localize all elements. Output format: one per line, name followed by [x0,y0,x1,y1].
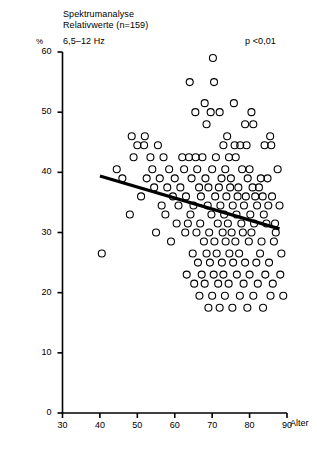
data-point [207,109,214,116]
data-point [188,175,195,182]
data-point [162,211,169,218]
data-point [212,154,219,161]
data-point [230,100,237,107]
data-point [202,175,209,182]
data-point [250,121,257,128]
data-point [211,238,218,245]
y-tick-label: 30 [30,227,52,237]
data-point [264,175,271,182]
data-point [268,142,275,149]
x-tick-label: 80 [239,420,261,430]
data-point [260,211,267,218]
data-point [236,292,243,299]
x-tick-label: 70 [201,420,223,430]
data-point [134,142,141,149]
data-point [158,202,165,209]
data-point [262,271,269,278]
data-point [198,271,205,278]
data-point [233,271,240,278]
data-point [220,271,227,278]
data-point [206,229,213,236]
data-point [280,292,287,299]
data-point [138,193,145,200]
y-tick-label: 50 [30,106,52,116]
data-point [203,250,210,257]
data-point [130,154,137,161]
data-point [179,154,186,161]
x-tick-label: 90 [276,420,298,430]
data-point [201,100,208,107]
data-point [203,121,210,128]
data-point [211,79,218,86]
data-point [154,142,161,149]
data-point [208,211,215,218]
data-point [246,271,253,278]
data-point [259,193,266,200]
data-point [141,133,148,140]
x-tick-label: 40 [89,420,111,430]
data-point [252,193,259,200]
data-point [185,154,192,161]
data-point [236,250,243,257]
data-point [143,175,150,182]
data-point [212,193,219,200]
data-point [244,175,251,182]
data-point [220,142,227,149]
data-point [192,109,199,116]
data-point [193,229,200,236]
data-point [205,304,212,311]
data-point [184,220,191,227]
data-point [226,250,233,257]
data-point [222,238,229,245]
data-point [164,184,171,191]
data-point [160,154,167,161]
data-point [219,229,226,236]
data-point [267,292,274,299]
data-point [242,193,249,200]
data-point [197,193,204,200]
y-tick-label: 60 [30,46,52,56]
y-tick-label: 20 [30,287,52,297]
data-point [183,271,190,278]
data-point [141,142,148,149]
data-point [240,202,247,209]
data-point [266,259,273,266]
data-point [248,109,255,116]
data-point [227,175,234,182]
data-point [215,280,222,287]
data-point [239,166,246,173]
data-point [235,184,242,191]
data-point [257,175,264,182]
data-point [240,280,247,287]
data-point [277,271,284,278]
y-tick-label: 10 [30,347,52,357]
y-tick-label: 40 [30,166,52,176]
data-point [147,154,154,161]
data-point [197,220,204,227]
data-point [222,166,229,173]
data-point [196,292,203,299]
scatter-plot-figure: Spektrumanalyse Relativwerte (n=159) 6,5… [0,0,317,450]
data-point [267,133,274,140]
data-point [199,154,206,161]
data-point [247,211,254,218]
data-point [186,79,193,86]
data-point [168,238,175,245]
data-point [209,166,216,173]
data-point [206,259,213,266]
data-point [218,175,225,182]
data-point [194,166,201,173]
data-point [171,175,178,182]
data-point [229,304,236,311]
data-point [248,229,255,236]
data-point [278,250,285,257]
data-point [261,142,268,149]
data-point [270,238,277,245]
data-point [196,184,203,191]
data-point [173,220,180,227]
data-point [276,202,283,209]
data-point [98,250,105,257]
data-point [210,271,217,278]
data-point [218,259,225,266]
data-point [246,166,253,173]
